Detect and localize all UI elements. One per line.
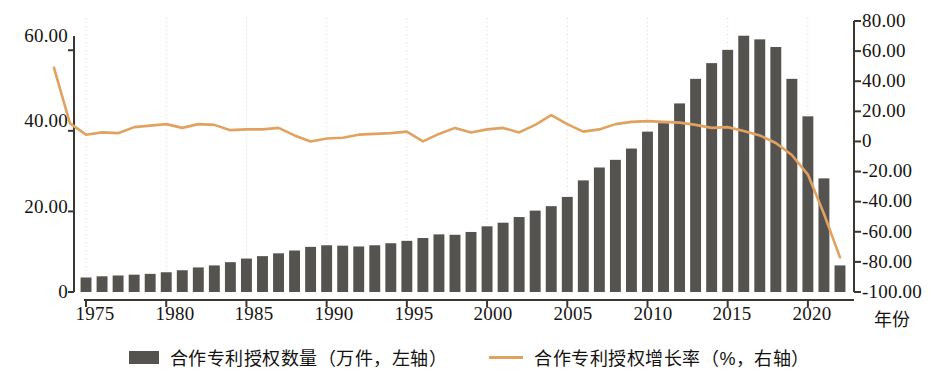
legend-item-bars: 合作专利授权数量（万件，左轴） — [129, 344, 448, 370]
chart-legend: 合作专利授权数量（万件，左轴） 合作专利授权增长率（%，右轴） — [0, 344, 939, 370]
plot-area — [0, 0, 939, 379]
legend-label-bars: 合作专利授权数量（万件，左轴） — [170, 344, 448, 370]
legend-item-line: 合作专利授权增长率（%，右轴） — [489, 344, 810, 370]
legend-label-line: 合作专利授权增长率（%，右轴） — [534, 344, 810, 370]
line-swatch-icon — [489, 356, 523, 359]
bar-swatch-icon — [129, 351, 159, 364]
chart-figure: 60.00 40.00 20.00 0 80.00 60.00 40.00 20… — [0, 0, 939, 379]
